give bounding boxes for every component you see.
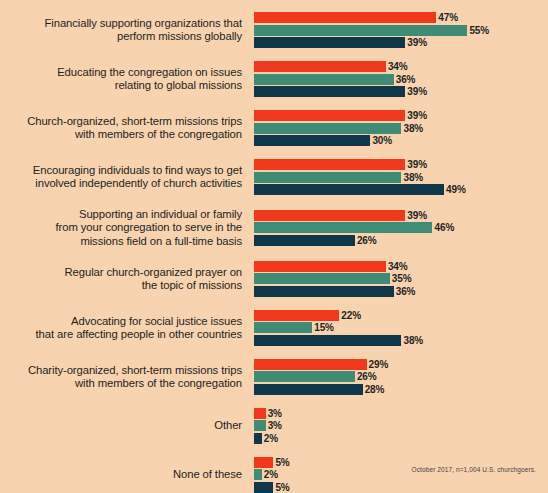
bar-value-label: 49% [446, 184, 466, 195]
bar-line: 39% [254, 86, 548, 97]
category-label: Financially supporting organizations tha… [0, 17, 254, 44]
bar-line: 39% [254, 159, 548, 170]
bar-series-1[interactable] [254, 359, 367, 370]
bar-value-label: 30% [372, 135, 392, 146]
bar-series-3[interactable] [254, 384, 363, 395]
bar-value-label: 36% [396, 286, 416, 297]
category-label: Supporting an individual or familyfrom y… [0, 208, 254, 248]
bar-series-1[interactable] [254, 210, 405, 221]
chart-footnote: October 2017, n=1,004 U.S. churchgoers. [412, 466, 536, 473]
bar-series-3[interactable] [254, 235, 355, 246]
bar-line: 38% [254, 335, 548, 346]
bar-value-label: 35% [392, 273, 412, 284]
bar-value-label: 2% [264, 433, 278, 444]
bar-value-label: 39% [407, 159, 427, 170]
category-label-line: involved independently of church activit… [35, 177, 242, 189]
bar-series-1[interactable] [254, 61, 386, 72]
bar-series-2[interactable] [254, 74, 394, 85]
category-label: Other [0, 419, 254, 432]
bar-series-3[interactable] [254, 86, 405, 97]
bar-value-label: 39% [407, 210, 427, 221]
category-label: Encouraging individuals to find ways to … [0, 164, 254, 191]
bar-series-3[interactable] [254, 433, 262, 444]
bar-line: 22% [254, 310, 548, 321]
bar-value-label: 5% [275, 482, 289, 493]
bar-line: 39% [254, 37, 548, 48]
bar-series-1[interactable] [254, 408, 266, 419]
bar-group: 39%38%49% [254, 159, 548, 195]
category-label: Educating the congregation on issuesrela… [0, 66, 254, 93]
bar-line: 47% [254, 12, 548, 23]
bar-series-2[interactable] [254, 322, 312, 333]
bar-series-2[interactable] [254, 25, 467, 36]
chart-rows: Financially supporting organizations tha… [0, 12, 548, 493]
bar-value-label: 2% [264, 469, 278, 480]
bar-series-2[interactable] [254, 371, 355, 382]
bar-value-label: 3% [268, 408, 282, 419]
category-label-line: relating to global missions [115, 79, 242, 91]
category-label-line: Advocating for social justice issues [71, 315, 242, 327]
bar-value-label: 55% [469, 25, 489, 36]
bar-line: 34% [254, 61, 548, 72]
bar-series-2[interactable] [254, 469, 262, 480]
category-label: None of these [0, 468, 254, 481]
bar-series-3[interactable] [254, 335, 401, 346]
bar-series-3[interactable] [254, 482, 273, 493]
category-label-line: that are affecting people in other count… [36, 328, 242, 340]
bar-series-3[interactable] [254, 184, 444, 195]
chart-row: Supporting an individual or familyfrom y… [0, 208, 548, 248]
bar-line: 38% [254, 123, 548, 134]
bar-series-2[interactable] [254, 172, 401, 183]
category-label-line: perform missions globally [117, 30, 242, 42]
category-label: Regular church-organized prayer onthe to… [0, 266, 254, 293]
bar-series-3[interactable] [254, 135, 370, 146]
category-label-line: from your congregation to serve in the [56, 221, 242, 233]
chart-row: None of these5%2%5% [0, 457, 548, 493]
bar-group: 29%26%28% [254, 359, 548, 395]
bar-series-2[interactable] [254, 222, 432, 233]
bar-series-1[interactable] [254, 457, 273, 468]
category-label-line: Encouraging individuals to find ways to … [33, 164, 242, 176]
bar-group: 34%36%39% [254, 61, 548, 97]
category-label-line: Church-organized, short-term missions tr… [27, 115, 242, 127]
bar-series-3[interactable] [254, 37, 405, 48]
bar-series-1[interactable] [254, 159, 405, 170]
bar-series-1[interactable] [254, 110, 405, 121]
bar-series-3[interactable] [254, 286, 394, 297]
bar-line: 3% [254, 420, 548, 431]
chart-row: Financially supporting organizations tha… [0, 12, 548, 48]
bar-value-label: 38% [403, 172, 423, 183]
bar-line: 3% [254, 408, 548, 419]
bar-value-label: 39% [407, 110, 427, 121]
bar-line: 38% [254, 172, 548, 183]
bar-value-label: 15% [314, 322, 334, 333]
bar-line: 26% [254, 371, 548, 382]
chart-row: Advocating for social justice issuesthat… [0, 310, 548, 346]
category-label-line: with members of the congregation [75, 377, 242, 389]
bar-value-label: 34% [388, 61, 408, 72]
bar-line: 49% [254, 184, 548, 195]
bar-line: 36% [254, 74, 548, 85]
bar-series-1[interactable] [254, 12, 436, 23]
bar-value-label: 36% [396, 74, 416, 85]
bar-series-2[interactable] [254, 123, 401, 134]
bar-value-label: 22% [341, 310, 361, 321]
category-label-line: Other [214, 419, 242, 431]
bar-series-1[interactable] [254, 310, 339, 321]
bar-value-label: 46% [434, 222, 454, 233]
bar-line: 28% [254, 384, 548, 395]
chart-row: Encouraging individuals to find ways to … [0, 159, 548, 195]
bar-line: 2% [254, 433, 548, 444]
bar-line: 39% [254, 210, 548, 221]
bar-line: 15% [254, 322, 548, 333]
bar-line: 29% [254, 359, 548, 370]
bar-value-label: 38% [403, 123, 423, 134]
bar-series-2[interactable] [254, 420, 266, 431]
bar-line: 55% [254, 25, 548, 36]
bar-series-1[interactable] [254, 261, 386, 272]
bar-group: 5%2%5% [254, 457, 548, 493]
bar-line: 26% [254, 235, 548, 246]
bar-value-label: 29% [369, 359, 389, 370]
bar-series-2[interactable] [254, 273, 390, 284]
bar-line: 5% [254, 482, 548, 493]
